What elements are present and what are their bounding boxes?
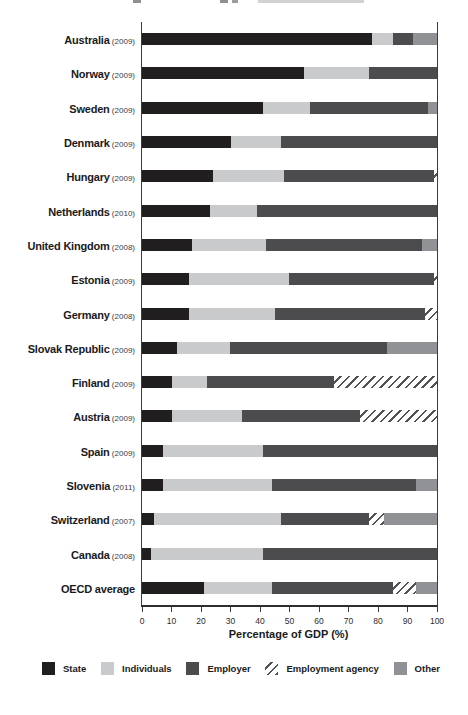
row-label: Germany (2008): [63, 306, 135, 322]
row-label: Sweden (2009): [69, 100, 135, 116]
bar-segment-employment-agency: [434, 273, 437, 285]
bar-segment-state: [142, 136, 231, 148]
row-label: Hungary (2009): [66, 168, 135, 184]
country-name: Slovak Republic: [28, 343, 110, 355]
x-tick: [260, 607, 261, 612]
stacked-bar: [142, 479, 437, 491]
row-label: Canada (2008): [71, 546, 135, 562]
stacked-bar: [142, 67, 437, 79]
bar-segment-state: [142, 67, 304, 79]
bar-segment-individuals: [204, 582, 272, 594]
bar-segment-employment-agency: [393, 582, 417, 594]
country-year: (2009): [110, 380, 135, 389]
legend-label: Employment agency: [286, 663, 378, 674]
country-name: Norway: [71, 68, 110, 80]
bar-segment-employer: [281, 513, 370, 525]
stacked-bar: [142, 205, 437, 217]
bar-segment-employer: [310, 102, 428, 114]
bar-row: Canada (2008): [142, 536, 437, 570]
bar-segment-employment-agency: [360, 410, 437, 422]
bar-segment-employer: [275, 308, 425, 320]
x-tick-label: 60: [314, 616, 323, 626]
bar-row: Austria (2009): [142, 399, 437, 433]
title-fragment: [232, 0, 238, 3]
bar-segment-employment-agency: [434, 170, 437, 182]
bar-segment-employment-agency: [369, 513, 384, 525]
stacked-bar: [142, 513, 437, 525]
bar-row: Australia (2009): [142, 22, 437, 56]
country-name: Canada: [71, 549, 110, 561]
bar-segment-individuals: [372, 33, 393, 45]
country-name: Austria: [73, 411, 110, 423]
bar-segment-state: [142, 548, 151, 560]
bar-row: Sweden (2009): [142, 91, 437, 125]
country-name: Switzerland: [51, 514, 110, 526]
legend-label: State: [63, 663, 86, 674]
bar-segment-employer: [263, 548, 437, 560]
x-axis-title: Percentage of GDP (%): [141, 628, 436, 640]
stacked-bar: [142, 342, 437, 354]
row-label: Finland (2009): [72, 374, 135, 390]
country-year: (2008): [110, 243, 135, 252]
x-tick: [319, 607, 320, 612]
country-year: (2009): [110, 71, 135, 80]
bar-segment-individuals: [304, 67, 369, 79]
bar-segment-individuals: [213, 170, 284, 182]
x-tick-label: 20: [196, 616, 205, 626]
bar-segment-state: [142, 239, 192, 251]
title-fragment: [133, 0, 141, 3]
country-year: (2009): [110, 140, 135, 149]
bar-segment-other: [416, 582, 437, 594]
country-name: Germany: [63, 309, 109, 321]
plot-area: Australia (2009)Norway (2009)Sweden (200…: [141, 22, 438, 607]
stacked-bar: [142, 445, 437, 457]
title-fragment: [258, 0, 364, 3]
x-tick-label: 70: [344, 616, 353, 626]
legend-item-state: State: [42, 662, 86, 675]
row-label: Denmark (2009): [64, 134, 135, 150]
country-year: (2008): [110, 312, 135, 321]
bar-row: Slovenia (2011): [142, 468, 437, 502]
stacked-bar: [142, 308, 437, 320]
bar-segment-state: [142, 33, 372, 45]
bar-segment-state: [142, 479, 163, 491]
row-label: United Kingdom (2008): [28, 237, 136, 253]
country-name: Finland: [72, 377, 110, 389]
x-tick-label: 0: [140, 616, 145, 626]
country-year: (2008): [110, 552, 135, 561]
bar-segment-individuals: [192, 239, 266, 251]
bar-row: Germany (2008): [142, 296, 437, 330]
country-year: (2009): [110, 449, 135, 458]
bar-segment-individuals: [189, 273, 289, 285]
bar-row: Switzerland (2007): [142, 502, 437, 536]
x-tick-label: 50: [285, 616, 294, 626]
row-label: Australia (2009): [64, 31, 135, 47]
row-label: Slovak Republic (2009): [28, 340, 135, 356]
row-label: OECD average: [61, 580, 135, 596]
bar-segment-other: [413, 33, 437, 45]
x-tick: [201, 607, 202, 612]
bar-segment-state: [142, 376, 172, 388]
stacked-bar: [142, 136, 437, 148]
country-year: (2010): [110, 209, 135, 218]
x-tick-label: 100: [430, 616, 444, 626]
row-label: Estonia (2009): [71, 271, 135, 287]
x-tick: [171, 607, 172, 612]
bar-segment-employer: [393, 33, 414, 45]
stacked-bar: [142, 239, 437, 251]
country-name: Denmark: [64, 137, 110, 149]
country-name: Sweden: [69, 103, 109, 115]
legend: StateIndividualsEmployerEmployment agenc…: [42, 662, 440, 675]
bar-segment-individuals: [189, 308, 275, 320]
bar-rows: Australia (2009)Norway (2009)Sweden (200…: [142, 22, 437, 605]
bar-segment-individuals: [263, 102, 310, 114]
bar-segment-state: [142, 102, 263, 114]
bar-segment-individuals: [154, 513, 281, 525]
bar-segment-employer: [263, 445, 437, 457]
country-year: (2007): [110, 517, 135, 526]
legend-swatch-hatched: [265, 662, 278, 675]
bar-row: Finland (2009): [142, 365, 437, 399]
legend-item-employment-agency: Employment agency: [265, 662, 378, 675]
legend-item-other: Other: [394, 662, 440, 675]
country-name: Hungary: [66, 171, 109, 183]
